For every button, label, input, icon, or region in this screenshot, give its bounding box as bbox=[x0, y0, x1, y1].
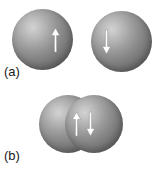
spin-pairing-figure: (a) (b) bbox=[0, 0, 161, 175]
spin-up-arrow-b-left bbox=[71, 111, 82, 137]
panel-label-b: (b) bbox=[4, 148, 20, 163]
spin-down-arrow-b-right bbox=[85, 111, 96, 137]
panel-a: (a) bbox=[0, 0, 161, 90]
panel-label-a: (a) bbox=[4, 64, 20, 79]
spin-down-arrow-a-right bbox=[101, 29, 112, 55]
spin-up-arrow-a-left bbox=[50, 27, 61, 53]
sphere-a-left-atom bbox=[12, 9, 73, 70]
